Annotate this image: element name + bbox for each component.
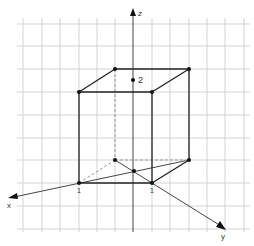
z-axis <box>130 8 136 232</box>
vertex-x-one <box>77 181 81 185</box>
y-one-label: 1 <box>150 187 154 194</box>
diagram-canvas: z x y 2 1 1 <box>0 0 254 246</box>
point-bottom-center <box>132 169 136 173</box>
vertex-bottom-back-right <box>187 158 191 162</box>
x-axis-label: x <box>7 201 11 210</box>
x-axis <box>8 160 189 199</box>
x-one-label: 1 <box>77 187 81 194</box>
vertex-top-front-right <box>150 90 154 94</box>
vertices <box>77 67 191 185</box>
vertex-top-front-left <box>77 90 81 94</box>
y-axis-label: y <box>221 232 225 241</box>
coordinate-diagram: z x y 2 1 1 <box>0 0 254 246</box>
vertex-origin <box>113 158 117 162</box>
z-axis-label: z <box>137 9 142 18</box>
vertex-y-one <box>150 181 154 185</box>
z-axis-arrow-icon <box>130 8 136 16</box>
z-two-label: 2 <box>138 75 143 85</box>
vertex-top-back-left <box>113 67 117 71</box>
hidden-edges <box>79 69 189 183</box>
point-z-two <box>131 78 135 82</box>
y-axis <box>115 160 226 230</box>
vertex-top-back-right <box>187 67 191 71</box>
box-edges <box>79 69 189 183</box>
x-axis-arrow-icon <box>8 193 18 199</box>
